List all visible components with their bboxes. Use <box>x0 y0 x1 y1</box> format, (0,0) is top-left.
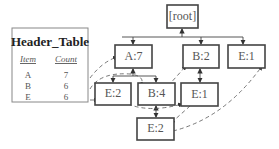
header-table-title: Header_Table <box>11 34 89 49</box>
node-label: A:7 <box>125 49 143 63</box>
node-e2-bottom: E:2 <box>137 118 174 140</box>
node-e1-top: E:1 <box>228 45 265 68</box>
node-e1-mid: E:1 <box>181 83 218 106</box>
tree-edges <box>113 29 243 117</box>
row-count-e: 6 <box>64 92 69 102</box>
fp-tree-diagram: Header_Table Item Count A 7 B 6 E 6 <box>0 0 279 149</box>
row-count-a: 7 <box>64 70 69 80</box>
column-header-count: Count <box>55 54 78 64</box>
node-label: E:2 <box>147 121 164 135</box>
node-label: B:4 <box>148 86 165 100</box>
node-label: B:2 <box>192 49 209 63</box>
node-label: E:1 <box>191 87 208 101</box>
node-label: E:1 <box>238 49 255 63</box>
node-b2: B:2 <box>183 45 219 68</box>
row-item-b: B <box>25 81 31 91</box>
row-count-b: 6 <box>64 81 69 91</box>
node-label: [root] <box>169 9 196 23</box>
row-item-a: A <box>25 70 32 80</box>
row-item-e: E <box>25 92 31 102</box>
node-b4: B:4 <box>138 83 175 105</box>
node-e2-left: E:2 <box>95 83 131 105</box>
column-header-item: Item <box>19 54 36 64</box>
node-label: E:2 <box>105 86 122 100</box>
node-a7: A:7 <box>115 45 152 68</box>
header-table: Header_Table Item Count A 7 B 6 E 6 <box>11 28 89 102</box>
node-root: [root] <box>167 5 198 28</box>
